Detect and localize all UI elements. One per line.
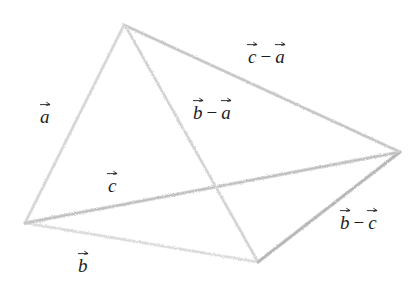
label-ca-operator: − xyxy=(256,47,275,66)
label-c-base: c xyxy=(108,175,116,196)
label-vector-a: a xyxy=(40,103,50,126)
edge-b-minus-a-core xyxy=(126,27,258,262)
label-bc-operator: − xyxy=(350,213,369,232)
label-ba-left: b xyxy=(193,102,203,123)
label-vector-b-minus-a: b − a xyxy=(193,99,231,122)
label-bc-right: c xyxy=(368,212,376,233)
label-ba-right: a xyxy=(221,102,231,123)
label-b-base: b xyxy=(78,255,88,276)
tetrahedron-vector-diagram: a b c xyxy=(0,0,416,299)
label-ca-left: c xyxy=(248,46,256,67)
label-vector-c: c xyxy=(108,172,116,195)
label-vector-b: b xyxy=(78,252,88,275)
edge-b-minus-c-core xyxy=(258,152,400,262)
diagram-canvas xyxy=(0,0,416,299)
label-a-base: a xyxy=(40,106,50,127)
label-ba-operator: − xyxy=(203,103,222,122)
label-vector-b-minus-c: b − c xyxy=(340,209,377,232)
label-ca-right: a xyxy=(275,46,285,67)
label-vector-c-minus-a: c − a xyxy=(248,43,285,66)
edge-b-core xyxy=(25,223,258,262)
label-bc-left: b xyxy=(340,212,350,233)
